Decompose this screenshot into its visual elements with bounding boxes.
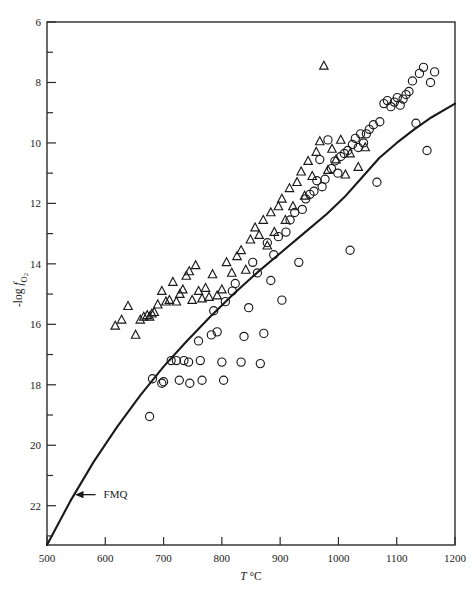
- y-tick-label: 16: [30, 318, 42, 330]
- data-point-triangle: [191, 261, 199, 269]
- data-point-circle: [186, 379, 194, 387]
- data-point-triangle: [354, 163, 362, 171]
- data-point-triangle: [285, 184, 293, 192]
- curve-curve-fmq: [47, 104, 455, 545]
- data-point-circle: [175, 376, 183, 384]
- data-point-circle: [220, 376, 228, 384]
- data-point-circle: [431, 68, 439, 76]
- y-axis-title: -log fO2: [12, 273, 29, 307]
- data-point-triangle: [304, 156, 312, 164]
- x-tick-label: 900: [272, 552, 289, 564]
- y-axis-ticks: [47, 22, 56, 536]
- data-point-triangle: [201, 283, 209, 291]
- data-point-circle: [159, 378, 167, 386]
- y-tick-label: 12: [30, 197, 41, 209]
- data-point-triangle: [131, 330, 139, 338]
- data-point-triangle: [165, 296, 173, 304]
- data-point-circle: [423, 146, 431, 154]
- data-point-triangle: [328, 144, 336, 152]
- data-point-triangle: [320, 61, 328, 69]
- data-point-triangle: [259, 215, 267, 223]
- data-point-triangle: [228, 268, 236, 276]
- data-point-circle: [185, 358, 193, 366]
- data-point-circle: [267, 276, 275, 284]
- data-point-circle: [415, 69, 423, 77]
- x-tick-label: 1100: [386, 552, 408, 564]
- data-point-triangle: [208, 270, 216, 278]
- data-point-triangle: [218, 285, 226, 293]
- data-series-triangles: [111, 61, 370, 338]
- data-point-circle: [316, 155, 324, 163]
- data-point-circle: [194, 337, 202, 345]
- data-point-triangle: [172, 297, 180, 305]
- data-point-circle: [263, 239, 271, 247]
- x-tick-label: 1200: [444, 552, 467, 564]
- data-point-circle: [295, 258, 303, 266]
- data-point-triangle: [222, 258, 230, 266]
- x-axis-title: T °C: [240, 570, 262, 582]
- data-point-circle: [196, 356, 204, 364]
- data-point-circle: [282, 228, 290, 236]
- data-point-circle: [231, 279, 239, 287]
- figure-container: 6810121416182022 50060070080090010001100…: [0, 0, 475, 596]
- data-point-circle: [145, 412, 153, 420]
- data-point-triangle: [117, 315, 125, 323]
- data-point-circle: [324, 136, 332, 144]
- y-tick-label: 14: [30, 258, 42, 270]
- svg-text:-log fO2: -log fO2: [12, 273, 29, 307]
- x-tick-label: 800: [214, 552, 231, 564]
- y-tick-label: 18: [30, 379, 42, 391]
- y-tick-label: 6: [36, 16, 42, 28]
- data-point-triangle: [274, 202, 282, 210]
- y-tick-label: 22: [30, 500, 41, 512]
- data-point-triangle: [188, 296, 196, 304]
- data-point-triangle: [341, 170, 349, 178]
- data-point-circle: [180, 356, 188, 364]
- data-point-triangle: [297, 167, 305, 175]
- fo2-vs-temperature-scatter-chart: 6810121416182022 50060070080090010001100…: [0, 0, 475, 596]
- data-point-circle: [256, 360, 264, 368]
- data-point-circle: [419, 63, 427, 71]
- data-point-circle: [426, 78, 434, 86]
- fmq-buffer-curve: [47, 104, 455, 545]
- data-point-circle: [373, 178, 381, 186]
- data-point-circle: [334, 169, 342, 177]
- x-axis-ticks: [47, 537, 455, 545]
- data-point-triangle: [205, 293, 213, 301]
- data-point-circle: [249, 258, 257, 266]
- data-point-triangle: [124, 302, 132, 310]
- data-point-triangle: [237, 246, 245, 254]
- data-point-circle: [278, 296, 286, 304]
- data-point-circle: [260, 329, 268, 337]
- y-tick-label: 20: [30, 439, 42, 451]
- data-point-circle: [172, 356, 180, 364]
- data-point-triangle: [158, 286, 166, 294]
- data-point-circle: [346, 246, 354, 254]
- data-point-circle: [237, 358, 245, 366]
- data-point-triangle: [251, 223, 259, 231]
- annotation-label-fmq: FMQ: [104, 488, 128, 500]
- data-point-triangle: [337, 135, 345, 143]
- data-point-circle: [412, 119, 420, 127]
- data-point-triangle: [308, 172, 316, 180]
- data-point-circle: [218, 358, 226, 366]
- y-tick-label: 8: [36, 76, 42, 88]
- data-point-triangle: [246, 235, 254, 243]
- data-point-triangle: [154, 300, 162, 308]
- data-point-circle: [274, 233, 282, 241]
- data-point-circle: [298, 205, 306, 213]
- data-point-triangle: [242, 265, 250, 273]
- x-tick-label: 1000: [327, 552, 350, 564]
- data-point-triangle: [255, 231, 263, 239]
- data-point-circle: [318, 183, 326, 191]
- data-point-triangle: [267, 208, 275, 216]
- data-point-triangle: [213, 291, 221, 299]
- data-point-triangle: [270, 228, 278, 236]
- data-point-triangle: [316, 137, 324, 145]
- x-tick-label: 500: [39, 552, 56, 564]
- data-point-circle: [198, 376, 206, 384]
- data-point-triangle: [312, 147, 320, 155]
- data-point-circle: [286, 216, 294, 224]
- x-tick-label: 600: [97, 552, 114, 564]
- data-point-triangle: [293, 178, 301, 186]
